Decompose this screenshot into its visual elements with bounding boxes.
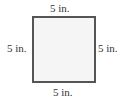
square-shape (32, 16, 96, 83)
top-side-label: 5 in. (50, 2, 70, 14)
left-side-label: 5 in. (7, 42, 27, 54)
bottom-side-label: 5 in. (53, 86, 73, 98)
right-side-label: 5 in. (98, 42, 118, 54)
